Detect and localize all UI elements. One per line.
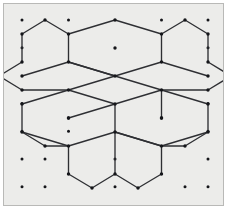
- pattern-edge: [92, 174, 115, 188]
- pattern-edge: [69, 76, 116, 90]
- lattice-diagram: [0, 0, 228, 212]
- vertex-dot: [67, 32, 70, 35]
- vertex-dot: [20, 102, 23, 105]
- pattern-edge: [115, 20, 162, 34]
- vertex-dot: [113, 130, 116, 133]
- pattern-edge: [69, 20, 116, 34]
- lattice-dot: [21, 158, 24, 161]
- lattice-dot: [67, 130, 70, 133]
- vertex-dot: [20, 60, 23, 63]
- pattern-edge: [185, 20, 208, 34]
- pattern-edge: [115, 76, 162, 90]
- vertex-dot: [206, 130, 209, 133]
- lattice-dot: [184, 185, 187, 188]
- vertex-dot: [206, 32, 209, 35]
- vertex-dot: [90, 186, 93, 189]
- vertex-dot: [206, 60, 209, 63]
- vertex-dot: [136, 186, 139, 189]
- pattern-edge: [0, 62, 22, 76]
- pattern-edge: [138, 174, 162, 188]
- vertex-dot: [20, 32, 23, 35]
- vertex-dot: [67, 172, 70, 175]
- hexagon-center-dot: [160, 116, 163, 119]
- pattern-edge: [208, 76, 228, 90]
- vertex-dot: [160, 32, 163, 35]
- pattern-edge: [22, 132, 45, 146]
- vertex-dot: [67, 88, 70, 91]
- pattern-edge: [69, 104, 116, 118]
- lattice-dot: [67, 19, 70, 22]
- pattern-edge: [162, 132, 209, 146]
- figure-canvas: [0, 0, 228, 212]
- pattern-edge: [115, 90, 162, 104]
- pattern-edge: [69, 174, 93, 188]
- vertex-dot: [20, 88, 23, 91]
- vertex-dot: [67, 144, 70, 147]
- vertex-dot: [113, 102, 116, 105]
- pattern-edge: [162, 62, 209, 76]
- pattern-edge: [22, 62, 69, 76]
- pattern-edge: [115, 174, 138, 188]
- lattice-dot: [44, 158, 47, 161]
- pattern-edge: [185, 132, 208, 146]
- pattern-edge: [162, 90, 209, 104]
- pattern-edge: [69, 132, 116, 146]
- vertex-dot: [20, 74, 23, 77]
- vertex-dot: [160, 88, 163, 91]
- vertex-dot: [113, 18, 116, 21]
- lattice-dot: [21, 19, 24, 22]
- pattern-edge: [45, 20, 69, 34]
- vertex-dot: [43, 18, 46, 21]
- vertex-dot: [160, 60, 163, 63]
- lattice-dot: [160, 19, 163, 22]
- pattern-edge: [115, 62, 162, 76]
- pattern-edge: [208, 62, 228, 76]
- vertex-dot: [160, 144, 163, 147]
- vertex-dot: [206, 88, 209, 91]
- vertex-dot: [43, 144, 46, 147]
- hexagon-center-dot: [67, 116, 70, 119]
- lattice-dot: [21, 185, 24, 188]
- pattern-edge: [22, 132, 69, 146]
- lattice-dot: [44, 185, 47, 188]
- vertex-dot: [20, 130, 23, 133]
- pattern-edge: [69, 62, 116, 76]
- vertex-dot: [67, 60, 70, 63]
- vertex-dot: [160, 172, 163, 175]
- lattice-dot: [114, 185, 117, 188]
- pattern-edge: [22, 90, 69, 104]
- vertex-dot: [183, 144, 186, 147]
- vertex-dot: [113, 172, 116, 175]
- pattern-edge: [162, 20, 186, 34]
- pattern-edge: [69, 90, 116, 104]
- lattice-dot: [207, 158, 210, 161]
- lattice-dot: [207, 185, 210, 188]
- hexagon-center-dot: [113, 46, 116, 49]
- pattern-edge: [115, 132, 162, 146]
- pattern-edge: [22, 20, 45, 34]
- lattice-dot: [207, 19, 210, 22]
- vertex-dot: [113, 74, 116, 77]
- vertex-dot: [206, 102, 209, 105]
- vertex-dot: [206, 74, 209, 77]
- vertex-dot: [183, 18, 186, 21]
- pattern-edge: [0, 76, 22, 90]
